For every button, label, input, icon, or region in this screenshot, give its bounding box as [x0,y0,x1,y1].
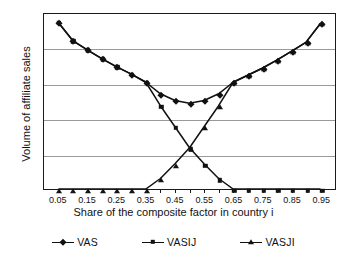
x-tick-mark [131,190,132,193]
x-tick-mark [175,190,176,193]
data-point-vasij [218,178,222,182]
data-point-vasji [231,80,237,85]
data-point-vasji [275,58,281,63]
x-tick-mark [146,190,147,193]
data-markers [44,14,335,189]
x-tick-mark [219,190,220,193]
chart-figure: Volume of affiliate sales 012345 0.050.1… [0,0,347,256]
data-point-vasji [290,49,296,54]
x-tick-mark [190,190,191,193]
x-axis-title: Share of the composite factor in country… [0,204,347,220]
x-tick-mark [160,190,161,193]
data-point-vasji [188,146,194,151]
data-point-vasji [202,125,208,130]
x-tick-mark [233,190,234,193]
data-point-vas [202,98,208,104]
x-tick-mark [116,190,117,193]
data-point-vasij [174,126,178,130]
x-tick-mark [58,190,59,193]
data-point-vasji [246,73,252,78]
legend-item-vasji[interactable]: VASJI [240,237,294,248]
x-tick-mark [204,190,205,193]
data-point-vasij [115,65,119,69]
x-tick-mark [72,190,73,193]
data-point-vas [187,101,193,107]
x-tick-mark [277,190,278,193]
chart-legend: VAS VASIJ VASJI [0,232,347,252]
data-point-vas [217,91,223,97]
data-point-vasij [159,105,163,109]
legend-marker-triangle-icon [240,237,262,247]
data-point-vasji [305,40,311,45]
legend-marker-diamond-icon [52,237,74,247]
data-point-vasij [144,81,148,85]
data-point-vasij [71,39,75,43]
legend-label-vasji: VASJI [265,237,294,248]
data-point-vasji [261,66,267,71]
x-tick-mark [292,190,293,193]
data-point-vasji [217,104,223,109]
data-point-vasij [130,73,134,77]
x-tick-mark [87,190,88,193]
data-point-vasij [86,48,90,52]
legend-item-vasij[interactable]: VASIJ [142,237,196,248]
data-point-vasji [319,21,325,26]
legend-label-vasij: VASIJ [167,237,196,248]
legend-item-vas[interactable]: VAS [52,237,98,248]
x-tick-mark [263,190,264,193]
data-point-vasij [203,163,207,167]
data-point-vasji [173,163,179,168]
data-point-vasij [100,57,104,61]
data-point-vasij [56,21,60,25]
legend-marker-square-icon [142,237,164,247]
data-point-vasji [158,178,164,183]
legend-label-vas: VAS [77,237,98,248]
x-tick-mark [321,190,322,193]
plot-area [43,13,336,190]
x-tick-mark [248,190,249,193]
x-tick-mark [307,190,308,193]
data-point-vas [173,98,179,104]
x-tick-mark [102,190,103,193]
data-point-vas [158,91,164,97]
